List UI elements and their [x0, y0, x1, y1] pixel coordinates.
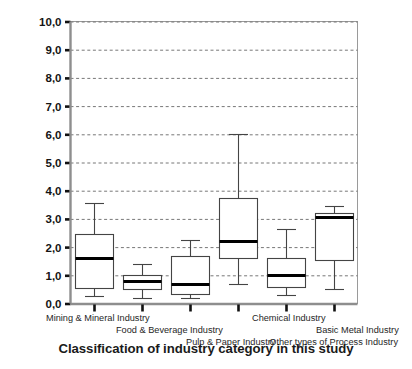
y-tick-label-2,0: 2,0: [46, 242, 62, 254]
x-category-label-5: Basic Metal Industry: [316, 325, 399, 335]
box-iqr: [268, 259, 306, 288]
y-tick-label-10,0: 10,0: [39, 16, 61, 28]
x-category-label-2: Food & Beverage Industry: [116, 325, 223, 335]
y-tick-label-8,0: 8,0: [46, 72, 62, 84]
y-tick-label-7,0: 7,0: [46, 101, 62, 113]
y-tick-label-4,0: 4,0: [46, 185, 62, 197]
y-tick-label-9,0: 9,0: [46, 44, 62, 56]
box-iqr: [220, 199, 258, 259]
y-tick-label-5,0: 5,0: [46, 157, 62, 169]
y-tick-label-1,0: 1,0: [46, 270, 62, 282]
y-tick-label-0,0: 0,0: [46, 298, 62, 310]
boxplot-canvas: 0,01,02,03,04,05,06,07,08,09,010,0Mining…: [0, 0, 412, 369]
box-iqr: [316, 214, 354, 261]
box-iqr: [172, 257, 210, 295]
y-tick-label-6,0: 6,0: [46, 129, 62, 141]
x-axis-title: Classification of industry category in t…: [0, 341, 412, 356]
boxplot-figure: R&D intensity (R&D turnover/company turn…: [0, 0, 412, 369]
y-tick-label-3,0: 3,0: [46, 213, 62, 225]
x-category-label-4: Chemical Industry: [252, 313, 326, 323]
x-category-label-1: Mining & Mineral Industry: [46, 313, 150, 323]
box-iqr: [76, 235, 114, 289]
